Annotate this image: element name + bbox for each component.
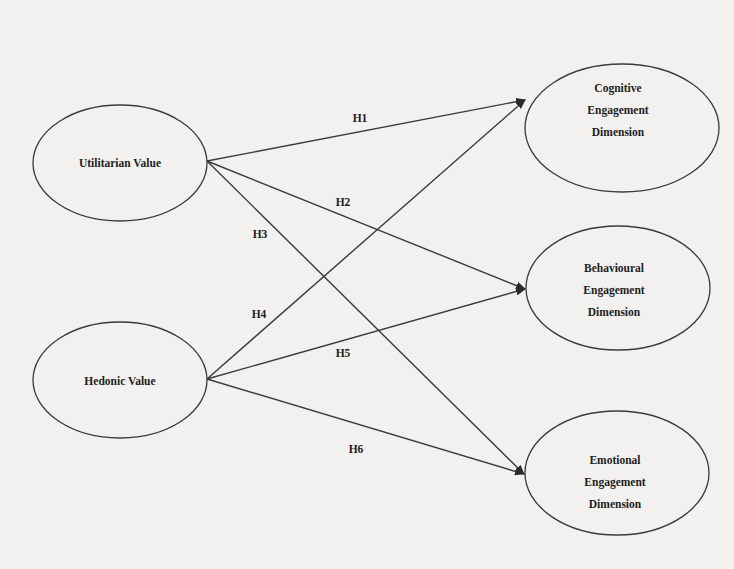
node-cognitive-label: Cognitive Engagement Dimension <box>587 77 648 143</box>
edge-h1-arrow <box>207 100 525 161</box>
edge-h2-arrow <box>207 161 525 289</box>
node-label-line: Dimension <box>584 493 645 515</box>
node-label-line: Utilitarian Value <box>79 152 161 174</box>
node-label-line: Dimension <box>587 121 648 143</box>
node-label-line: Engagement <box>584 471 645 493</box>
edge-label-h2: H2 <box>336 196 351 208</box>
hypothesis-model-diagram: Utilitarian Value Hedonic Value Cognitiv… <box>0 0 734 569</box>
edge-label-h1: H1 <box>353 112 368 124</box>
node-label-line: Emotional <box>584 449 645 471</box>
edge-label-h3: H3 <box>253 228 268 240</box>
node-behavioural-label: Behavioural Engagement Dimension <box>583 257 644 323</box>
node-hedonic-label: Hedonic Value <box>84 370 155 392</box>
node-label-line: Hedonic Value <box>84 370 155 392</box>
node-label-line: Cognitive <box>587 77 648 99</box>
node-label-line: Engagement <box>587 99 648 121</box>
node-utilitarian-label: Utilitarian Value <box>79 152 161 174</box>
edge-h5-arrow <box>207 289 525 379</box>
node-label-line: Behavioural <box>583 257 644 279</box>
edge-label-h5: H5 <box>336 347 351 359</box>
edge-label-h4: H4 <box>252 308 267 320</box>
node-emotional-label: Emotional Engagement Dimension <box>584 449 645 515</box>
node-label-line: Engagement <box>583 279 644 301</box>
node-label-line: Dimension <box>583 301 644 323</box>
edge-label-h6: H6 <box>349 443 364 455</box>
